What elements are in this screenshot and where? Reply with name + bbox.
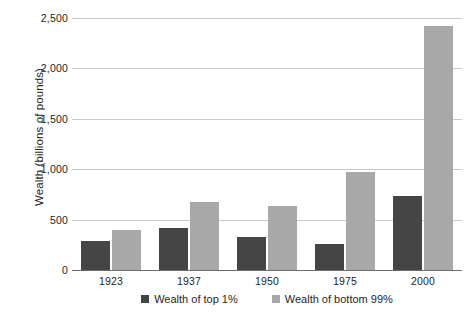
bar	[112, 230, 141, 270]
legend-label: Wealth of bottom 99%	[285, 293, 393, 305]
bar	[346, 172, 375, 270]
bar	[315, 244, 344, 270]
y-tick-label: 1,000	[41, 163, 68, 175]
bar-chart: Wealth (billions of pounds) 05001,0001,5…	[0, 0, 471, 323]
x-tick-label: 1937	[150, 275, 228, 287]
bar-group	[315, 18, 375, 270]
x-tick-label: 1975	[306, 275, 384, 287]
bar	[268, 206, 297, 270]
plot-area	[72, 18, 462, 270]
x-tick-label: 1950	[228, 275, 306, 287]
x-axis-tick-labels: 19231937195019752000	[72, 275, 462, 287]
x-tick-label: 2000	[384, 275, 462, 287]
bar	[159, 228, 188, 270]
legend: Wealth of top 1%Wealth of bottom 99%	[72, 293, 462, 305]
y-tick-label: 2,000	[41, 62, 68, 74]
bar	[81, 241, 110, 270]
bar	[190, 202, 219, 270]
y-tick-label: 0	[62, 264, 68, 276]
bar-group	[237, 18, 297, 270]
bar	[424, 26, 453, 270]
legend-label: Wealth of top 1%	[154, 293, 238, 305]
y-tick-label: 500	[50, 214, 68, 226]
y-axis-tick-labels: 05001,0001,5002,0002,500	[18, 18, 68, 270]
legend-item[interactable]: Wealth of bottom 99%	[272, 293, 393, 305]
y-tick-label: 1,500	[41, 113, 68, 125]
x-axis-line	[72, 270, 462, 272]
x-tick-label: 1923	[72, 275, 150, 287]
bar-group	[159, 18, 219, 270]
legend-swatch-icon	[272, 295, 280, 303]
bar-groups	[72, 18, 462, 270]
bar-group	[393, 18, 453, 270]
y-tick-label: 2,500	[41, 12, 68, 24]
bar-group	[81, 18, 141, 270]
legend-item[interactable]: Wealth of top 1%	[141, 293, 238, 305]
legend-swatch-icon	[141, 295, 149, 303]
bar	[237, 237, 266, 270]
bar	[393, 196, 422, 270]
